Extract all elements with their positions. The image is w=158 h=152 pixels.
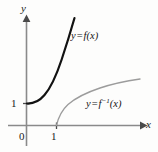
inverse-label-exponent: −1 — [102, 97, 110, 105]
inverse-label-argument: (x) — [110, 98, 122, 109]
function-inverse-graph-figure: y x 1 0 1 y=f(x) y=f−1(x) — [0, 0, 158, 152]
x-axis — [8, 122, 148, 130]
x-axis-tick-label-1: 1 — [51, 131, 57, 142]
inverse-function-curve-label: y=f−1(x) — [86, 99, 121, 110]
function-label-variable: y — [71, 30, 76, 41]
y-axis-arrowhead — [23, 15, 31, 23]
function-label-equals: = — [76, 30, 84, 41]
origin-label: 0 — [19, 131, 25, 142]
function-curve-label: y=f(x) — [71, 31, 98, 42]
inverse-label-equals: = — [91, 98, 99, 109]
inverse-label-variable: y — [86, 98, 91, 109]
x-axis-label: x — [146, 119, 151, 130]
y-axis-label: y — [21, 3, 26, 14]
y-axis-tick-label-1: 1 — [11, 98, 17, 109]
function-curve — [27, 18, 75, 104]
function-label-argument: (x) — [87, 30, 99, 41]
